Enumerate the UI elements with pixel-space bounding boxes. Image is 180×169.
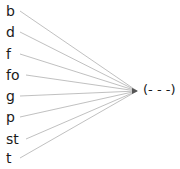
source-label: t — [6, 151, 12, 165]
edge-line — [26, 91, 137, 139]
edge-line — [20, 32, 137, 91]
source-label: st — [6, 132, 19, 146]
source-label: p — [6, 110, 15, 124]
source-label: fo — [6, 68, 20, 82]
target-node-label: (- - -) — [143, 83, 175, 96]
source-label: g — [6, 89, 15, 103]
arrowhead-icon — [132, 88, 138, 94]
source-label: d — [6, 25, 15, 39]
source-label: f — [6, 47, 11, 61]
edge-line — [20, 11, 137, 91]
edge-line — [20, 54, 137, 91]
source-label: b — [6, 4, 15, 18]
edge-line — [20, 91, 137, 158]
